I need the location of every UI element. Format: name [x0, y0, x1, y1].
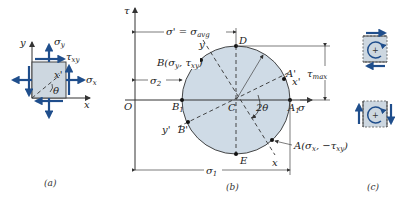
origin-label: O: [124, 101, 132, 112]
point-a-leader: [275, 141, 292, 145]
tau-axis-label: τ: [124, 5, 130, 16]
stress-element: [32, 62, 66, 98]
sigma-y-label: σy: [54, 36, 66, 49]
theta-label: θ: [53, 85, 59, 96]
element-top: +: [363, 33, 387, 66]
x-label: x: [84, 99, 90, 110]
y-label: y: [19, 37, 26, 48]
point-a-label: A(σx, −τxy): [293, 140, 348, 153]
mohr-circle-figure: y x σy τxy σx x' θ (a): [0, 0, 399, 205]
two-theta-label: 2θ: [255, 102, 268, 113]
panel-b-mohr-circle: σ' = σavg σ2 σ1 τmax τ σ O C D E A1 B1 A…: [124, 5, 348, 192]
x-prime-label: x': [54, 69, 62, 80]
element-bottom: +: [359, 101, 391, 127]
e-label: E: [239, 155, 248, 166]
panel-a-stress-element: y x σy τxy σx x' θ (a): [13, 36, 97, 188]
point-a: [270, 138, 274, 142]
x-line-label: x: [272, 157, 278, 168]
caption-a: (a): [44, 178, 57, 188]
d-label: D: [238, 35, 247, 46]
caption-b: (b): [226, 182, 239, 192]
center-label: C: [228, 102, 236, 113]
x-prime-label-b: x': [292, 76, 300, 87]
point-b1: [180, 98, 184, 102]
y-prime-label: y': [161, 124, 170, 135]
plus-sign-top: +: [372, 46, 379, 55]
b-prime-label: B': [177, 124, 188, 135]
caption-c: (c): [367, 182, 380, 192]
plus-sign-bottom: +: [372, 111, 379, 120]
tau-xy-label: τxy: [66, 51, 80, 64]
sigma-x-label: σx: [86, 74, 97, 87]
panel-c-sign-convention: + + (c): [359, 33, 391, 192]
point-e: [234, 152, 238, 156]
y-line-label: y: [198, 39, 205, 50]
